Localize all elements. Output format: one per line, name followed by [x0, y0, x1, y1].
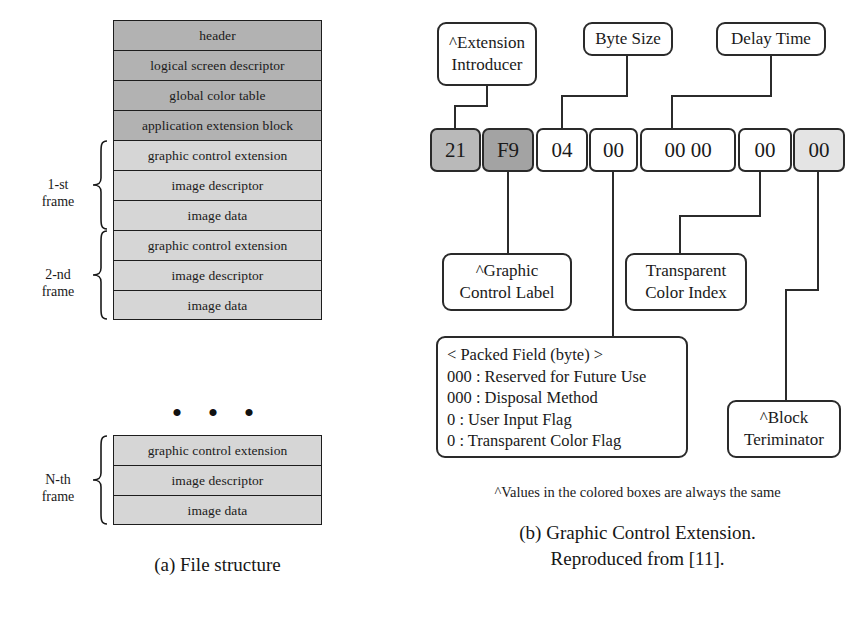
file-structure-row: image descriptor — [113, 260, 322, 290]
file-structure-row: global color table — [113, 80, 322, 110]
file-structure-row: application extension block — [113, 110, 322, 140]
frame-label-line1: N-th — [45, 472, 71, 487]
file-structure-row: header — [113, 20, 322, 50]
caption-figure-a: (a) File structure — [95, 552, 340, 578]
callout-line1: ^Block — [744, 407, 824, 429]
caption-line2: Reproduced from [11]. — [551, 548, 725, 569]
callout-line1: Transparent — [645, 260, 727, 282]
callout-block-terminator: ^Block Teriminator — [727, 400, 841, 458]
brace-first-frame — [90, 140, 110, 230]
file-structure-row: image descriptor — [113, 465, 322, 495]
frame-label-second: 2-nd frame — [28, 266, 88, 300]
figure-page: header logical screen descriptor global … — [0, 0, 855, 627]
frame-label-line2: frame — [42, 284, 75, 299]
callout-line2: Color Index — [645, 282, 727, 304]
footnote-colored-boxes: ^Values in the colored boxes are always … — [430, 483, 845, 501]
frame-label-line1: 1-st — [48, 177, 69, 192]
packed-field-box: < Packed Field (byte) > 000 : Reserved f… — [436, 336, 688, 458]
file-structure-row: graphic control extension — [113, 435, 322, 465]
packed-field-line: 000 : Reserved for Future Use — [447, 366, 677, 388]
byte-box-packed-field: 00 — [589, 128, 638, 172]
frame-label-line2: frame — [42, 194, 75, 209]
brace-nth-frame — [90, 435, 110, 525]
file-structure-row: image descriptor — [113, 170, 322, 200]
packed-field-title: < Packed Field (byte) > — [447, 344, 677, 366]
callout-line2: Introducer — [449, 54, 525, 76]
file-structure-diagram: header logical screen descriptor global … — [113, 20, 322, 320]
callout-line1: Byte Size — [595, 28, 661, 50]
brace-second-frame — [90, 230, 110, 320]
byte-box-graphic-control-label: F9 — [482, 128, 534, 172]
file-structure-row: graphic control extension — [113, 140, 322, 170]
frame-label-first: 1-st frame — [28, 176, 88, 210]
packed-field-line: 000 : Disposal Method — [447, 387, 677, 409]
callout-line1: Delay Time — [731, 28, 811, 50]
callout-extension-introducer: ^Extension Introducer — [437, 22, 537, 86]
byte-box-extension-introducer: 21 — [430, 128, 481, 172]
caption-figure-b: (b) Graphic Control Extension. Reproduce… — [425, 520, 850, 572]
callout-byte-size: Byte Size — [583, 22, 673, 56]
file-structure-row: image data — [113, 290, 322, 320]
callout-line2: Teriminator — [744, 429, 824, 451]
frame-label-line1: 2-nd — [45, 267, 71, 282]
callout-line2: Control Label — [460, 282, 555, 304]
file-structure-row: image data — [113, 495, 322, 525]
callout-line1: ^Extension — [449, 32, 525, 54]
file-structure-row: logical screen descriptor — [113, 50, 322, 80]
frame-label-line2: frame — [42, 489, 75, 504]
file-structure-row: image data — [113, 200, 322, 230]
byte-box-delay-time: 00 00 — [640, 128, 736, 172]
callout-line1: ^Graphic — [460, 260, 555, 282]
callout-delay-time: Delay Time — [716, 22, 826, 56]
packed-field-line: 0 : User Input Flag — [447, 409, 677, 431]
frame-label-nth: N-th frame — [28, 471, 88, 505]
file-structure-row: graphic control extension — [113, 230, 322, 260]
byte-box-block-terminator: 00 — [793, 128, 845, 172]
packed-field-line: 0 : Transparent Color Flag — [447, 430, 677, 452]
ellipsis-separator: • • • — [113, 398, 322, 428]
file-structure-nth-frame-group: graphic control extension image descript… — [113, 435, 322, 525]
callout-transparent-color-index: Transparent Color Index — [625, 253, 747, 311]
caption-line1: (b) Graphic Control Extension. — [519, 522, 755, 543]
byte-box-transparent-color-index: 00 — [738, 128, 792, 172]
callout-graphic-control-label: ^Graphic Control Label — [442, 253, 572, 311]
byte-box-byte-size: 04 — [536, 128, 588, 172]
